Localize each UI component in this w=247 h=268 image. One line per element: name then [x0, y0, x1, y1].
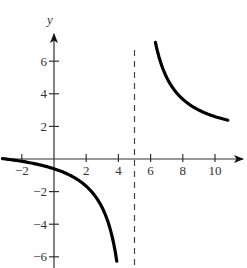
x-tick-label: 6: [147, 163, 154, 178]
x-tick-label: −2: [15, 163, 29, 178]
y-tick-label: −4: [33, 217, 47, 232]
x-tick-label: 4: [115, 163, 122, 178]
x-tick-label: 8: [180, 163, 187, 178]
y-tick-label: 2: [41, 119, 48, 134]
y-tick-label: −6: [33, 249, 47, 264]
y-tick-label: 6: [41, 54, 48, 69]
y-tick-label: 4: [41, 86, 48, 101]
x-tick-label: 10: [209, 163, 222, 178]
x-tick-label: 2: [83, 163, 90, 178]
curve-right-branch: [155, 42, 227, 120]
y-axis-label: y: [45, 12, 53, 27]
y-tick-label: −2: [33, 184, 47, 199]
function-graph: y −2246810 642−2−4−6: [0, 0, 247, 268]
